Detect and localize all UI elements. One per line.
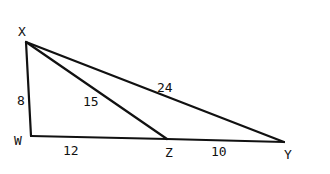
length-label-wz: 12	[63, 143, 79, 158]
length-label-xz: 15	[83, 94, 99, 109]
triangle-diagram: X W Z Y 8 12 10 15 24	[0, 0, 330, 174]
segment-xw	[26, 42, 31, 136]
length-label-xy: 24	[157, 80, 173, 95]
vertex-label-w: W	[14, 133, 22, 148]
vertex-label-z: Z	[165, 145, 173, 160]
segment-xy	[26, 42, 284, 142]
length-label-xw: 8	[17, 93, 25, 108]
segment-xz	[26, 42, 167, 139]
vertex-label-x: X	[18, 24, 26, 39]
segment-zy	[167, 139, 284, 142]
segment-wz	[31, 136, 167, 139]
length-label-zy: 10	[211, 144, 227, 159]
vertex-label-y: Y	[284, 147, 292, 162]
